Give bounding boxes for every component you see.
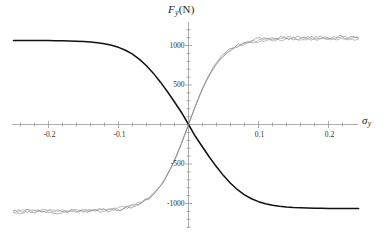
x-tick-label: -0.1: [110, 130, 130, 139]
axes-group: [12, 22, 358, 228]
y-axis-label: Fy(N): [168, 3, 195, 17]
x-tick-label: 0.1: [250, 130, 270, 139]
x-axis-label: σy: [362, 114, 371, 128]
y-tick-label: -500: [161, 159, 185, 168]
y-tick-label: 500: [161, 80, 185, 89]
y-axis-label-unit: (N): [179, 3, 195, 15]
x-tick-label: 0.2: [320, 130, 340, 139]
y-tick-label: 1000: [161, 41, 185, 50]
x-axis-label-subscript: y: [368, 119, 372, 128]
y-axis-label-symbol: F: [168, 3, 175, 15]
chart-figure: Fy(N) σy -0.2-0.10.10.21000500-500-1000: [0, 0, 388, 246]
plot-canvas: [0, 0, 388, 246]
y-tick-label: -1000: [161, 199, 185, 208]
x-tick-label: -0.2: [40, 130, 60, 139]
